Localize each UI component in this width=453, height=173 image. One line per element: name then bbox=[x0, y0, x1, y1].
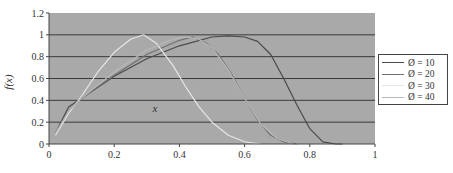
legend-swatch bbox=[382, 85, 404, 86]
legend-label: Ø = 20 bbox=[408, 69, 434, 79]
legend-label: Ø = 30 bbox=[408, 81, 434, 91]
svg-text:1: 1 bbox=[39, 29, 44, 40]
svg-text:0.4: 0.4 bbox=[32, 95, 45, 106]
svg-text:0.6: 0.6 bbox=[238, 149, 251, 160]
svg-text:0.8: 0.8 bbox=[304, 149, 317, 160]
svg-text:0: 0 bbox=[39, 139, 44, 150]
svg-text:0.6: 0.6 bbox=[32, 73, 45, 84]
legend-swatch bbox=[382, 62, 404, 63]
legend: Ø = 10 Ø = 20 Ø = 30 Ø = 40 bbox=[378, 54, 448, 105]
legend-label: Ø = 10 bbox=[408, 58, 434, 68]
legend-swatch bbox=[382, 97, 404, 98]
legend-label: Ø = 40 bbox=[408, 92, 434, 102]
svg-text:1.2: 1.2 bbox=[32, 8, 45, 19]
legend-item: Ø = 30 bbox=[382, 80, 444, 92]
svg-text:0: 0 bbox=[47, 149, 52, 160]
legend-swatch bbox=[382, 74, 404, 75]
svg-text:0.2: 0.2 bbox=[108, 149, 121, 160]
svg-text:0.8: 0.8 bbox=[32, 51, 45, 62]
x-axis-title: x bbox=[152, 102, 158, 114]
svg-text:0.4: 0.4 bbox=[173, 149, 186, 160]
legend-item: Ø = 20 bbox=[382, 69, 444, 81]
y-axis-title: f(x) bbox=[2, 74, 15, 90]
legend-item: Ø = 40 bbox=[382, 92, 444, 104]
legend-item: Ø = 10 bbox=[382, 57, 444, 69]
svg-text:1: 1 bbox=[373, 149, 378, 160]
svg-text:0.2: 0.2 bbox=[32, 117, 45, 128]
